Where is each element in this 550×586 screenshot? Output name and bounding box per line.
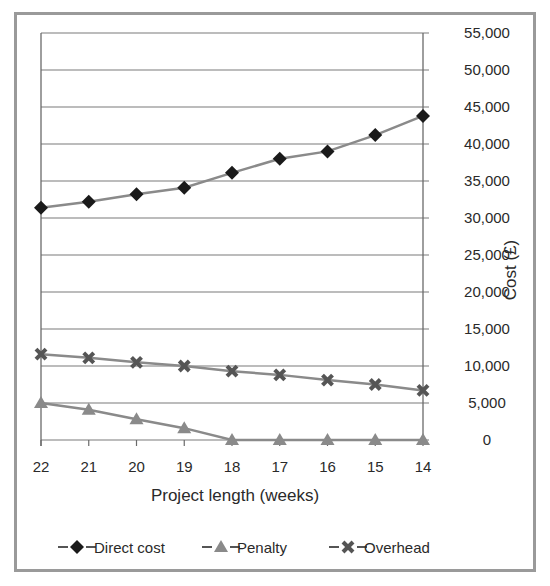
x-axis-label: Project length (weeks) bbox=[151, 486, 319, 505]
legend-label: Penalty bbox=[237, 539, 288, 556]
triangle-marker-icon bbox=[34, 396, 48, 408]
y-tick-label: 30,000 bbox=[464, 209, 510, 226]
x-tick-label: 17 bbox=[271, 458, 288, 475]
diamond-marker-icon bbox=[273, 152, 287, 166]
y-tick-label: 40,000 bbox=[464, 135, 510, 152]
y-tick-label: 45,000 bbox=[464, 98, 510, 115]
x-tick-label: 20 bbox=[128, 458, 145, 475]
series-overhead bbox=[36, 349, 428, 395]
y-axis-label: Cost (£) bbox=[501, 240, 520, 300]
series-direct-cost bbox=[34, 109, 430, 215]
diamond-marker-icon bbox=[70, 540, 84, 554]
y-tick-label: 15,000 bbox=[464, 320, 510, 337]
x-tick-label: 22 bbox=[33, 458, 50, 475]
x-tick-label: 16 bbox=[319, 458, 336, 475]
diamond-marker-icon bbox=[321, 144, 335, 158]
y-tick-label: 50,000 bbox=[464, 61, 510, 78]
legend-label: Direct cost bbox=[94, 539, 166, 556]
diamond-marker-icon bbox=[34, 201, 48, 215]
legend-item: Overhead bbox=[329, 539, 430, 556]
x-tick-label: 14 bbox=[415, 458, 432, 475]
triangle-marker-icon bbox=[214, 540, 228, 552]
y-tick-label: 35,000 bbox=[464, 172, 510, 189]
diamond-marker-icon bbox=[368, 128, 382, 142]
legend-label: Overhead bbox=[364, 539, 430, 556]
y-tick-label: 55,000 bbox=[464, 24, 510, 41]
x-tick-label: 21 bbox=[80, 458, 97, 475]
x-tick-label: 18 bbox=[224, 458, 241, 475]
diamond-marker-icon bbox=[82, 195, 96, 209]
x-marker-icon bbox=[343, 542, 353, 552]
x-tick-label: 19 bbox=[176, 458, 193, 475]
diamond-marker-icon bbox=[130, 187, 144, 201]
legend-item: Penalty bbox=[202, 539, 288, 556]
line-chart: 05,00010,00015,00020,00025,00030,00035,0… bbox=[0, 0, 550, 586]
y-tick-label: 0 bbox=[483, 431, 491, 448]
y-tick-label: 10,000 bbox=[464, 357, 510, 374]
legend: Direct costPenaltyOverhead bbox=[58, 539, 430, 556]
diamond-marker-icon bbox=[225, 166, 239, 180]
diamond-marker-icon bbox=[177, 181, 191, 195]
x-tick-label: 15 bbox=[367, 458, 384, 475]
diamond-marker-icon bbox=[416, 109, 430, 123]
y-tick-label: 5,000 bbox=[468, 394, 506, 411]
legend-item: Direct cost bbox=[58, 539, 166, 556]
series-line bbox=[41, 116, 423, 208]
